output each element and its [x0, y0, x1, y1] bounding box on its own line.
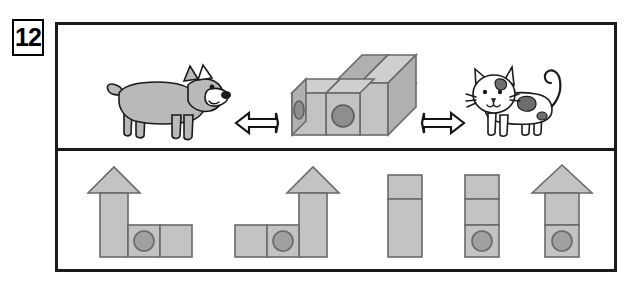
option-1[interactable]: [80, 163, 208, 261]
option-4-segment-middle: [465, 199, 499, 225]
option-5-segment-middle: [545, 193, 579, 225]
bottom-panel-options: [58, 151, 614, 272]
cube-middle-hole: [332, 105, 354, 127]
option-1-tower: [100, 193, 128, 257]
block-structure-3d: [288, 33, 428, 145]
option-3[interactable]: [376, 163, 436, 261]
question-number-box: 12: [12, 19, 44, 56]
option-4[interactable]: [453, 163, 513, 261]
option-5-roof: [532, 165, 592, 193]
option-2-tower: [299, 193, 327, 257]
option-2-square-left: [235, 225, 267, 257]
top-panel: [58, 25, 614, 148]
cat-figure: [464, 61, 574, 141]
option-3-segment-bottom: [388, 199, 422, 257]
puzzle-page: 12: [0, 0, 638, 292]
diagram-frame: [55, 22, 617, 272]
option-2[interactable]: [225, 163, 353, 261]
dog-figure: [102, 63, 232, 141]
option-2-circle: [273, 231, 293, 251]
option-4-circle: [472, 231, 492, 251]
option-3-segment-top: [388, 175, 422, 199]
cube-left-hole: [294, 101, 304, 119]
option-5[interactable]: [524, 163, 600, 261]
option-4-segment-top: [465, 175, 499, 199]
option-1-square-right: [160, 225, 192, 257]
arrow-left-icon: [420, 109, 466, 137]
arrow-right-icon: [234, 109, 280, 137]
question-number-label: 12: [15, 23, 41, 52]
option-1-circle: [134, 231, 154, 251]
option-5-circle: [552, 231, 572, 251]
option-1-roof: [88, 167, 140, 193]
tower-front-face: [360, 83, 388, 135]
option-2-roof: [287, 167, 339, 193]
